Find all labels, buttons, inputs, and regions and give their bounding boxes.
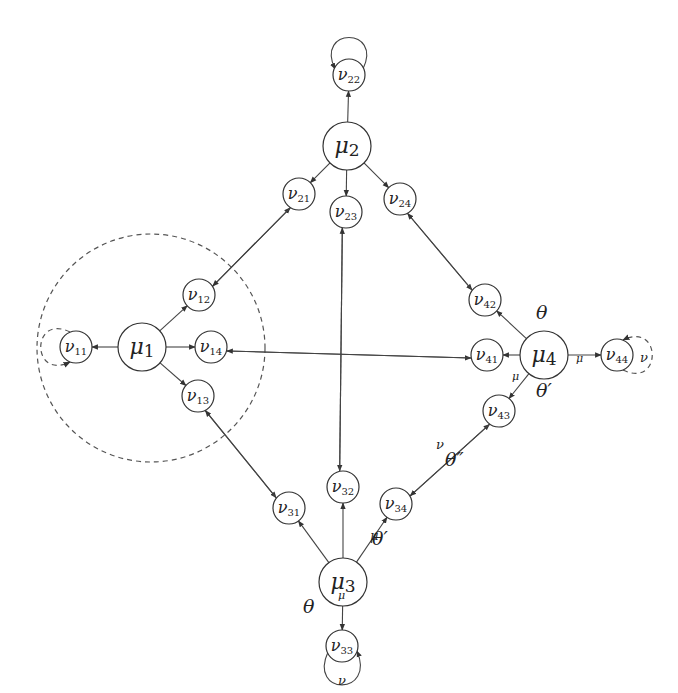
edge-mu2-nu22 <box>348 91 349 122</box>
node-nu31: ν31 <box>273 492 305 524</box>
edge-mu2-nu24 <box>364 163 389 188</box>
node-nu44: ν44 <box>601 339 633 371</box>
edge-nu32-nu23 <box>340 228 343 471</box>
mu3-theta-label: θ <box>303 595 315 617</box>
node-nu22: ν22 <box>333 59 365 91</box>
state-diagram: μ1μ2μ3μ4ν11ν12ν13ν14ν21ν22ν23ν24ν31ν32ν3… <box>0 0 678 693</box>
node-nu24: ν24 <box>384 183 416 215</box>
theta-double-prime-label: θ″ <box>445 448 464 470</box>
node-nu42: ν42 <box>469 284 501 316</box>
edge-nu21-nu12 <box>213 208 290 286</box>
node-nu33: ν33 <box>326 630 358 662</box>
edge-mu1-nu12 <box>160 306 187 331</box>
node-nu43: ν43 <box>483 395 515 427</box>
mu4-nu43-mu-label: μ <box>512 370 519 383</box>
mu3-nu33-mu-label: μ <box>338 589 345 602</box>
mu4-nu44-mu-label: μ <box>576 352 583 365</box>
node-nu14: ν14 <box>195 331 227 363</box>
node-mu2: μ2 <box>323 122 371 170</box>
node-nu12: ν12 <box>183 279 215 311</box>
edge-mu1-nu13 <box>160 363 186 386</box>
nu33-loop-nu-label: ν <box>338 673 346 688</box>
mu4-theta-prime-label: θ′ <box>536 379 552 401</box>
node-nu41: ν41 <box>471 339 503 371</box>
nodes: μ1μ2μ3μ4ν11ν12ν13ν14ν21ν22ν23ν24ν31ν32ν3… <box>60 59 633 662</box>
node-nu13: ν13 <box>182 380 214 412</box>
mu3-theta-prime-label: θ′ <box>372 527 388 549</box>
nu44-loop-nu-label: ν <box>640 350 648 365</box>
node-mu4: μ4 <box>520 331 568 379</box>
node-nu11: ν11 <box>60 331 92 363</box>
node-nu21: ν21 <box>283 178 315 210</box>
edge-nu31-nu13 <box>205 411 276 498</box>
node-mu1: μ1 <box>118 323 166 371</box>
edge-mu4-nu42 <box>497 311 527 339</box>
node-nu34: ν34 <box>380 488 412 520</box>
node-nu32: ν32 <box>327 471 359 503</box>
nu43-nu34-nu-label: ν <box>436 437 444 452</box>
edge-nu41-nu14 <box>227 351 471 358</box>
node-nu23: ν23 <box>330 196 362 228</box>
edge-mu3-nu31 <box>298 521 328 563</box>
edge-mu2-nu21 <box>310 163 330 183</box>
mu4-theta-label: θ <box>536 301 548 323</box>
edge-nu42-nu24 <box>408 213 472 290</box>
